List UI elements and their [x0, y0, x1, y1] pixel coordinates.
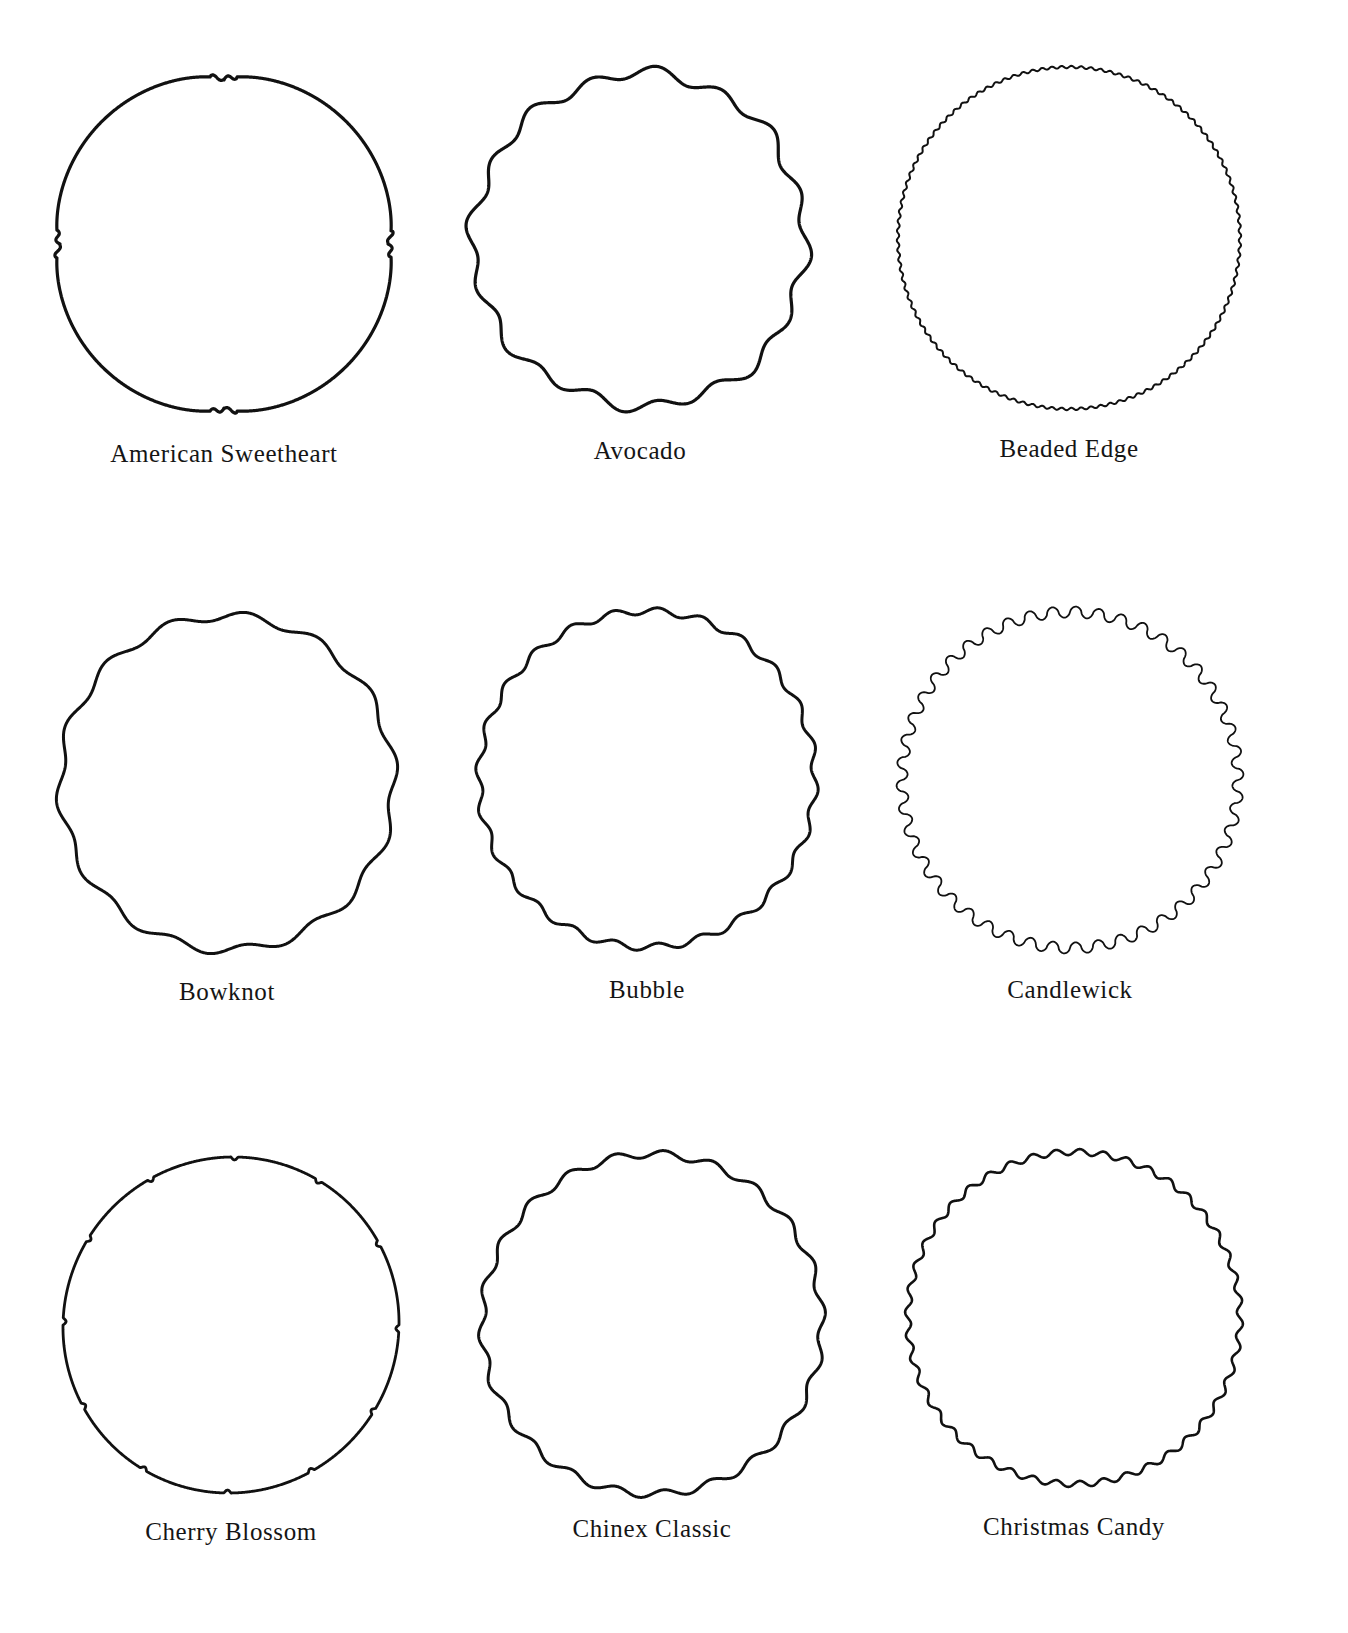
pattern-label: American Sweetheart: [110, 440, 337, 468]
pattern-label: Bowknot: [179, 978, 275, 1006]
plate-outline-icon: [462, 1134, 842, 1514]
pattern-label: Beaded Edge: [999, 435, 1138, 463]
plate-outline-icon: [454, 54, 826, 426]
pattern-label: Candlewick: [1007, 976, 1132, 1004]
pattern-reference-sheet: American Sweetheart Avocado Beaded Edge …: [0, 0, 1348, 1633]
plate-outline-icon: [43, 1137, 419, 1513]
pattern-label: Avocado: [594, 437, 687, 465]
plate-outline-icon: [459, 591, 835, 967]
plate-outline-icon: [40, 596, 414, 970]
pattern-label: Cherry Blossom: [145, 1518, 317, 1546]
plate-outline-icon: [882, 592, 1258, 968]
plate-outline-icon: [888, 1132, 1260, 1504]
plate-outline-icon: [34, 54, 414, 434]
pattern-label: Chinex Classic: [572, 1515, 731, 1543]
plate-outline-icon: [878, 47, 1260, 429]
pattern-label: Christmas Candy: [983, 1513, 1165, 1541]
pattern-label: Bubble: [609, 976, 685, 1004]
